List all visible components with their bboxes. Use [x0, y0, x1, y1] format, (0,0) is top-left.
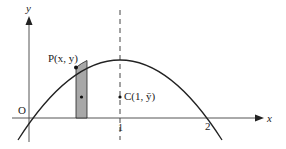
point-p-label: P(x, y): [48, 52, 78, 65]
x-axis-arrow-icon: [255, 115, 264, 122]
centroid-c-dot: [118, 95, 121, 98]
y-axis-arrow-icon: [26, 16, 33, 25]
x-tick-2-label: 2: [205, 120, 211, 132]
point-p-marker: [74, 66, 78, 70]
y-axis-label: y: [25, 2, 31, 14]
x-tick-1-label: 1: [118, 122, 123, 133]
strip-centroid-dot: [80, 95, 83, 98]
x-axis-label: x: [266, 112, 272, 124]
origin-label: O: [18, 104, 26, 116]
centroid-c-label: C(1, ȳ): [124, 90, 156, 103]
parabola-centroid-diagram: y x O 1 2 P(x, y) C(1, ȳ): [0, 0, 286, 149]
